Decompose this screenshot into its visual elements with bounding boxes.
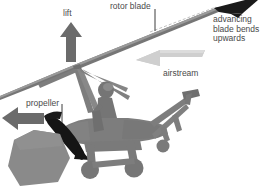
label-airstream: airstream [163, 69, 198, 79]
label-lift: lift [63, 9, 72, 19]
airstream-arrow [136, 50, 205, 66]
label-rotor-blade: rotor blade [110, 2, 151, 12]
label-propeller: propeller [26, 99, 59, 109]
label-advancing-blade-bends-upwards: advancing blade bends upwards [213, 15, 259, 44]
gray-polygon [8, 130, 70, 186]
diagram-canvas: lift rotor blade advancing blade bends u… [0, 0, 264, 192]
thrust-arrow [2, 107, 44, 130]
tail-boom-and-fin [150, 89, 200, 153]
lift-arrow [60, 22, 82, 62]
